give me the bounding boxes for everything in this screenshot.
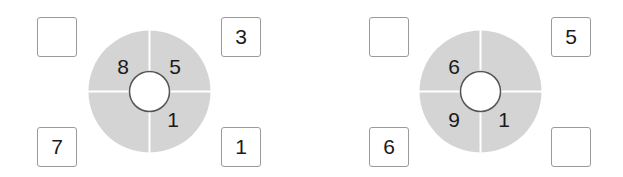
box-bottom-left[interactable]: 6: [369, 127, 409, 167]
box-top-left[interactable]: [369, 17, 409, 57]
box-top-right[interactable]: 5: [551, 17, 591, 57]
wheel-segment-top-left: 6: [448, 55, 460, 79]
wheel-segment-bottom-right: 1: [167, 108, 179, 132]
wheel-graphic: [88, 30, 211, 153]
puzzle-1: 3 7 1 8 5 1: [0, 0, 311, 177]
box-bottom-right[interactable]: [551, 127, 591, 167]
number-wheel: 8 5 1: [88, 30, 211, 153]
box-bottom-right[interactable]: 1: [221, 127, 261, 167]
wheel-segment-bottom-left: 9: [448, 108, 460, 132]
box-top-left[interactable]: [37, 17, 77, 57]
number-wheel: 6 9 1: [419, 30, 542, 153]
wheel-segment-bottom-right: 1: [498, 108, 510, 132]
box-bottom-left[interactable]: 7: [37, 127, 77, 167]
wheel-graphic: [419, 30, 542, 153]
box-top-right[interactable]: 3: [221, 17, 261, 57]
puzzle-2: 5 6 6 9 1: [311, 0, 622, 177]
wheel-segment-top-left: 8: [117, 55, 129, 79]
wheel-segment-top-right: 5: [169, 55, 181, 79]
